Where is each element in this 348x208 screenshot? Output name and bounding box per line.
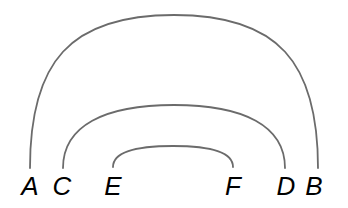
node-label-a: A — [19, 171, 38, 201]
node-label-e: E — [104, 171, 122, 201]
node-label-b: B — [305, 171, 322, 201]
arc-diagram-canvas: A C E F D B — [0, 0, 348, 208]
arc-diagram-figure: A C E F D B — [0, 0, 348, 208]
node-label-f: F — [225, 171, 243, 201]
node-label-c: C — [53, 171, 72, 201]
node-label-d: D — [277, 171, 296, 201]
